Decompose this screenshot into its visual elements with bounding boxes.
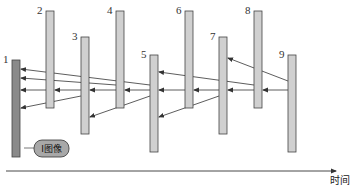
frame-bar-8 (254, 11, 262, 108)
i-frame-callout: I图像 (24, 140, 69, 157)
frame-label-9: 9 (279, 48, 285, 60)
frame-bar-6 (185, 11, 193, 108)
frame-label-6: 6 (176, 4, 182, 16)
frame-label-8: 8 (245, 4, 251, 16)
frame-label-3: 3 (72, 30, 78, 42)
frame-label-5: 5 (141, 48, 147, 60)
frame-bar-3 (81, 37, 89, 134)
frame-4: 4 (107, 4, 124, 108)
frame-7: 7 (210, 30, 227, 134)
frame-1: 1 (3, 53, 20, 157)
frame-bar-9 (288, 55, 296, 152)
frame-label-2: 2 (37, 4, 43, 16)
frame-9: 9 (279, 48, 296, 152)
frame-label-1: 1 (3, 53, 9, 65)
frame-label-4: 4 (107, 4, 113, 16)
frame-bar-2 (46, 11, 54, 108)
reference-arrow-8-to-5 (159, 72, 254, 85)
time-axis-label: 时间 (330, 174, 350, 186)
frame-bar-7 (219, 37, 227, 134)
frame-8: 8 (245, 4, 262, 108)
frame-2: 2 (37, 4, 54, 108)
frame-bar-4 (116, 11, 124, 108)
time-axis: 时间 (6, 171, 350, 186)
frame-bar-5 (150, 55, 158, 152)
gop-reference-diagram: 123456789 I图像 时间 (0, 0, 354, 187)
frame-6: 6 (176, 4, 193, 108)
callout-label: I图像 (41, 143, 62, 154)
frame-5: 5 (141, 48, 158, 152)
frame-label-7: 7 (210, 30, 216, 42)
frames: 123456789 (3, 4, 296, 157)
frame-bar-1 (12, 60, 20, 157)
